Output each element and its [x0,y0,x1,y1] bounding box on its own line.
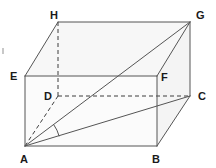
geometry-figure: A B C D E F G H [0,0,216,168]
scan-speck [2,48,4,54]
vertex-label-B: B [152,153,160,165]
vertex-label-H: H [50,9,58,21]
face-front-ABFE [25,76,157,146]
cuboid-svg-canvas: A B C D E F G H [0,0,216,168]
vertex-label-D: D [44,90,52,102]
vertex-label-G: G [196,9,205,21]
vertex-label-F: F [161,71,168,83]
vertex-label-C: C [198,90,206,102]
vertex-label-E: E [10,70,17,82]
vertex-label-A: A [20,153,28,165]
